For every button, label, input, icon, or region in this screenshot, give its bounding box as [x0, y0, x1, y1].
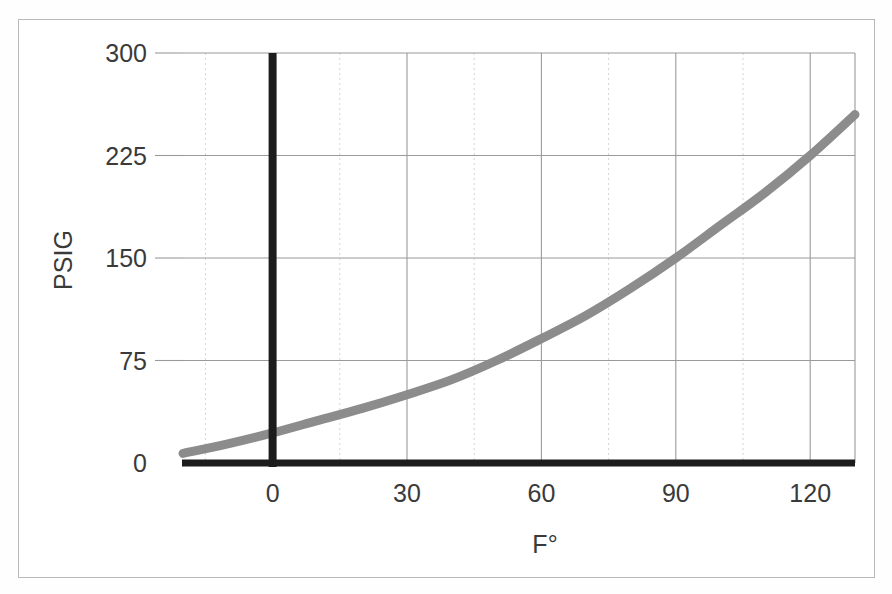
x-tick-label: 120 [789, 479, 831, 508]
axis-lines-group [182, 53, 855, 467]
x-axis-title: F° [532, 530, 557, 559]
y-tick-label: 300 [105, 39, 147, 68]
psig-vs-fahrenheit-chart: 075150225300 0306090120 PSIG F° [0, 0, 892, 594]
x-tick-label: 0 [266, 479, 280, 508]
y-tick-label: 225 [105, 141, 147, 170]
series-line [183, 115, 855, 454]
y-tick-label: 150 [105, 244, 147, 273]
major-gridlines-group [183, 53, 855, 463]
x-tick-label: 90 [662, 479, 690, 508]
x-tick-label: 30 [393, 479, 421, 508]
x-tick-label: 60 [527, 479, 555, 508]
y-axis-title: PSIG [49, 230, 78, 290]
y-tick-label: 75 [119, 346, 147, 375]
chart-plot-svg [0, 0, 892, 594]
scanned-page-background: 075150225300 0306090120 PSIG F° [0, 0, 892, 594]
tick-dash-group [155, 53, 183, 361]
data-series-group [183, 115, 855, 454]
y-tick-label: 0 [133, 449, 147, 478]
